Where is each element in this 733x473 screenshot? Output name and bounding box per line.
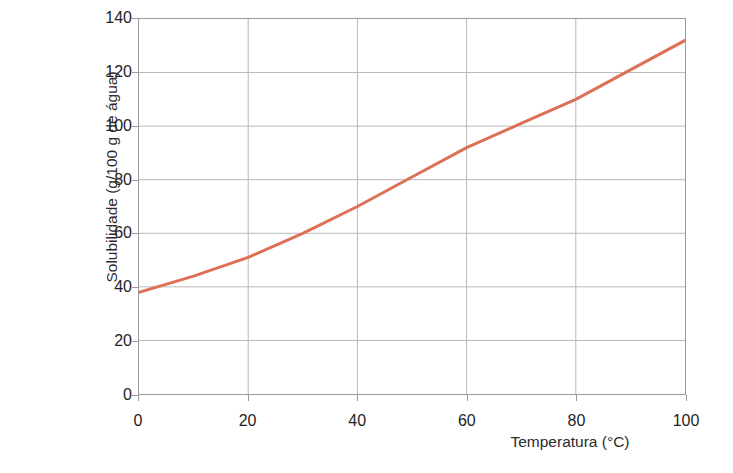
x-tick-mark [576,395,577,401]
x-tick-mark [138,395,139,401]
x-tick-mark [467,395,468,401]
x-tick-mark [248,395,249,401]
chart-figure: MÔNICA R. SUGUIYAMA/Acervo da editora So… [0,0,733,473]
x-tick-mark [357,395,358,401]
solubility-curve [139,19,685,394]
y-axis-tick-labels: 020406080100120140 [76,18,132,395]
y-tick-label: 60 [80,225,132,241]
x-axis-tick-labels: 020406080100 [138,404,686,428]
x-tick-mark [686,395,687,401]
x-tick-label: 40 [327,413,387,429]
x-tick-label: 80 [546,413,606,429]
plot-area [138,18,686,395]
x-tick-label: 60 [437,413,497,429]
y-tick-label: 80 [80,172,132,188]
y-tick-label: 0 [80,387,132,403]
y-tick-label: 20 [80,333,132,349]
y-tick-label: 100 [80,118,132,134]
x-tick-label: 0 [108,413,168,429]
x-tick-label: 20 [218,413,278,429]
x-tick-label: 100 [656,413,716,429]
x-axis-label: Temperatura (°C) [440,433,700,451]
y-tick-label: 40 [80,279,132,295]
y-tick-label: 140 [80,10,132,26]
y-tick-label: 120 [80,64,132,80]
